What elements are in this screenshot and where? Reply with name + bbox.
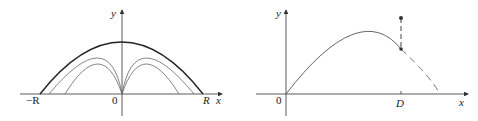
- envelope-curve: [40, 42, 203, 94]
- label-R: R: [202, 94, 210, 106]
- label-y-left: y: [110, 7, 116, 19]
- label-x-right: x: [458, 96, 464, 108]
- trajectory-solid: [286, 31, 401, 94]
- diagram-canvas: −R 0 R x y 0 D x y: [0, 0, 478, 121]
- left-figure: −R 0 R x y: [20, 7, 222, 116]
- trajectory-left-high: [49, 58, 122, 94]
- label-neg-R: −R: [26, 94, 40, 106]
- label-y-right: y: [275, 7, 281, 19]
- impact-point: [399, 47, 403, 51]
- trajectory-right-high: [122, 58, 194, 94]
- label-origin-right: 0: [276, 94, 282, 106]
- label-origin-left: 0: [112, 94, 118, 106]
- label-x-left: x: [215, 94, 221, 106]
- trajectory-dashed: [401, 49, 440, 94]
- target-point: [399, 16, 403, 20]
- right-figure: 0 D x y: [256, 7, 468, 116]
- label-D: D: [395, 97, 404, 109]
